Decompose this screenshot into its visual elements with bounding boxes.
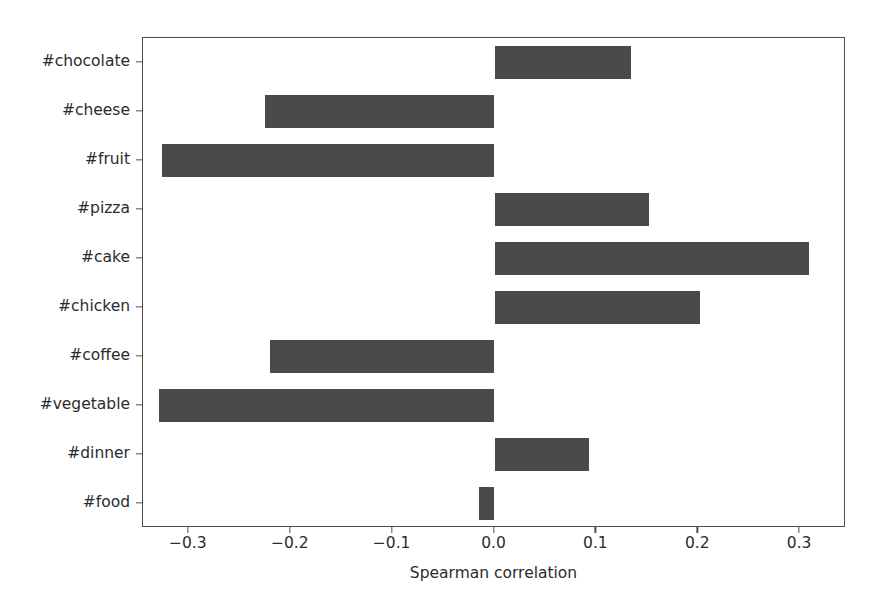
bar-pizza bbox=[495, 193, 650, 226]
x-tick-mark bbox=[493, 527, 494, 533]
bar-coffee bbox=[270, 340, 494, 373]
x-tick-mark bbox=[289, 527, 290, 533]
x-tick-label: 0.1 bbox=[583, 536, 608, 552]
bar-cheese bbox=[265, 95, 494, 128]
x-tick-label: −0.2 bbox=[271, 536, 309, 552]
bar-chicken bbox=[495, 291, 701, 324]
bars-layer bbox=[143, 38, 844, 526]
x-axis-tick-labels: −0.3−0.2−0.10.00.10.20.3 bbox=[142, 536, 845, 562]
bar-dinner bbox=[495, 438, 590, 471]
bar-food bbox=[479, 487, 494, 520]
x-tick-mark bbox=[798, 527, 799, 533]
plot-area bbox=[142, 37, 845, 527]
x-tick-mark bbox=[187, 527, 188, 533]
bar-cake bbox=[495, 242, 810, 275]
x-tick-label: 0.0 bbox=[481, 536, 506, 552]
x-tick-label: −0.3 bbox=[169, 536, 207, 552]
chart-figure: #chocolate#cheese#fruit#pizza#cake#chick… bbox=[0, 0, 885, 615]
x-axis-label: Spearman correlation bbox=[142, 564, 845, 582]
bar-vegetable bbox=[159, 389, 494, 422]
bar-chocolate bbox=[495, 46, 632, 79]
x-tick-label: −0.1 bbox=[373, 536, 411, 552]
x-tick-mark bbox=[595, 527, 596, 533]
bar-fruit bbox=[162, 144, 494, 177]
y-axis-tick-marks bbox=[0, 37, 142, 527]
x-tick-mark bbox=[391, 527, 392, 533]
x-tick-mark bbox=[697, 527, 698, 533]
x-tick-label: 0.2 bbox=[685, 536, 710, 552]
x-tick-label: 0.3 bbox=[787, 536, 812, 552]
